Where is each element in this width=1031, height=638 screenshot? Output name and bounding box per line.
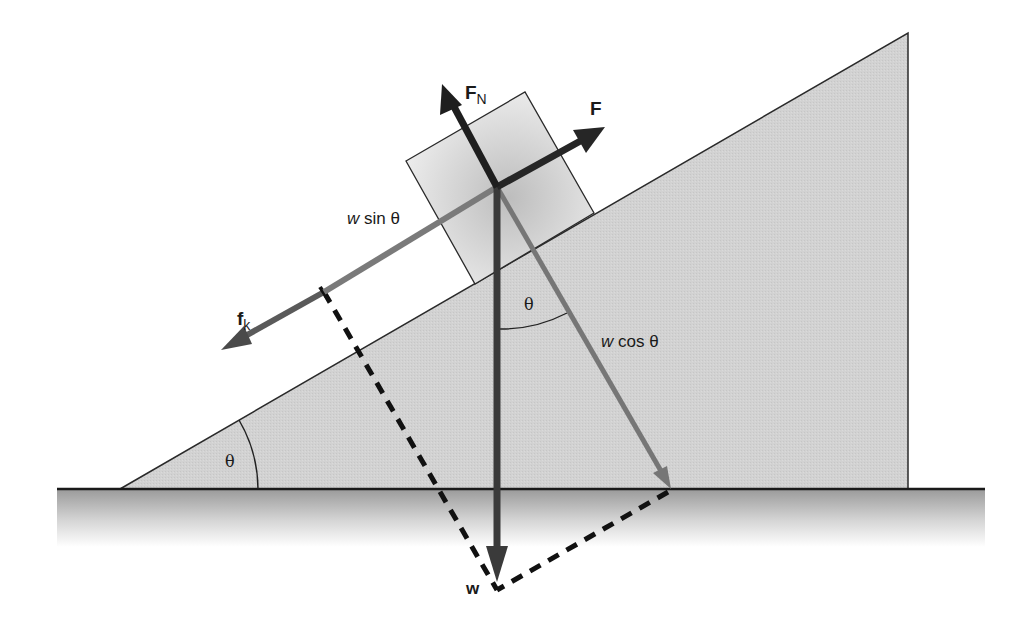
label-theta-vertical: θ [524,295,534,314]
label-normal-force: FN [465,82,487,107]
ground [57,489,985,547]
label-w-cos-theta: w cos θ [601,332,659,351]
label-friction: fk [237,308,251,333]
inclined-plane-diagram: FN F fk w sin θ w cos θ w θ θ [0,0,1031,638]
label-theta-incline: θ [225,452,235,471]
friction-arrow-shaft [240,292,324,339]
weight-arrowhead-icon [486,546,508,582]
label-weight: w [465,579,480,598]
label-applied-force: F [590,98,602,119]
label-w-sin-theta: w sin θ [347,209,400,228]
